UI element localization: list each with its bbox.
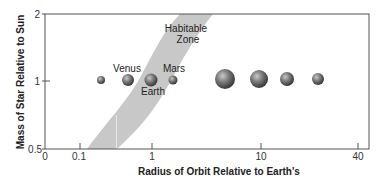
planet-neptune [312, 73, 324, 85]
y-tick-2: 2 [34, 9, 40, 20]
label-mars: Mars [163, 63, 185, 74]
y-tick-0-5: 0.5 [28, 144, 42, 155]
label-venus: Venus [113, 63, 141, 74]
planet-uranus [280, 72, 294, 86]
habitable-zone-label-line2: Zone [177, 34, 200, 45]
x-tick-40: 40 [352, 151, 364, 162]
planet-mars [169, 76, 178, 85]
x-tick-0: 0 [42, 151, 48, 162]
planet-mercury [97, 76, 105, 84]
label-earth: Earth [141, 86, 165, 97]
habitable-zone-label-line1: Habitable [165, 23, 208, 34]
planet-saturn [250, 70, 268, 88]
planet-jupiter [215, 69, 235, 89]
x-tick-0-1: 0.1 [72, 151, 86, 162]
planet-earth [145, 74, 158, 87]
planet-venus [122, 74, 134, 86]
y-tick-1: 1 [34, 76, 40, 87]
x-tick-1: 1 [149, 151, 155, 162]
x-axis-title: Radius of Orbit Relative to Earth's [138, 166, 300, 177]
y-axis-title: Mass of Star Relative to Sun [15, 15, 26, 149]
habitable-zone-diagram: 2 1 0.5 Mass of Star Relative to Sun 0 0… [0, 0, 385, 181]
x-tick-10: 10 [255, 151, 267, 162]
